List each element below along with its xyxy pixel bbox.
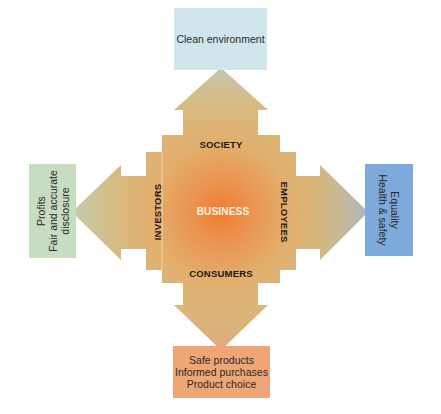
- outcome-text: Clean environment: [176, 33, 264, 45]
- outcome-text: Informed purchases: [175, 366, 268, 378]
- outcome-text: Profits: [35, 170, 47, 252]
- outcome-text: disclosure: [59, 170, 71, 252]
- outcome-text: Product choice: [175, 378, 268, 390]
- arrow-left-tint: [72, 165, 146, 260]
- outcome-box-society: Clean environment: [174, 8, 267, 70]
- arrow-right-tint: [296, 165, 368, 260]
- arrow-down-tint: [174, 283, 268, 350]
- outcome-text: Fair and accurate: [47, 170, 59, 252]
- label-society: SOCIETY: [199, 139, 242, 150]
- outcome-text: Health & safety: [377, 174, 389, 245]
- outcome-text: Safe products: [175, 354, 268, 366]
- arrow-up-tint: [174, 68, 268, 135]
- outcome-box-investors: Profits Fair and accurate disclosure: [29, 164, 76, 258]
- label-consumers: CONSUMERS: [189, 268, 253, 279]
- outcome-text: Equality: [389, 174, 401, 245]
- label-investors: INVESTORS: [152, 184, 163, 241]
- label-employees: EMPLOYEES: [279, 182, 290, 243]
- outcome-box-employees: Equality Health & safety: [365, 164, 413, 256]
- outcome-box-consumers: Safe products Informed purchases Product…: [173, 346, 270, 398]
- label-business: BUSINESS: [197, 206, 250, 217]
